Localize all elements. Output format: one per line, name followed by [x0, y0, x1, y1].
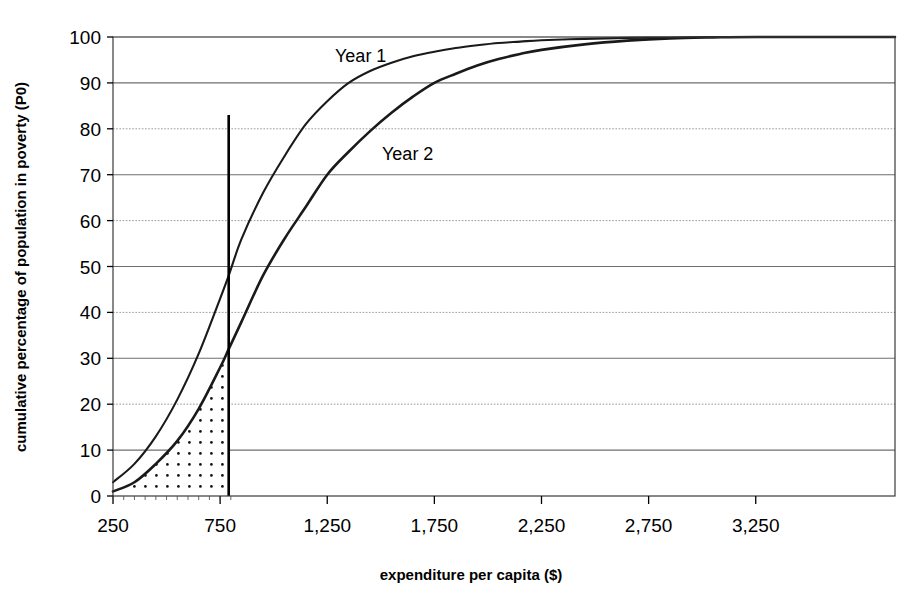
- x-tick-label: 250: [97, 515, 129, 536]
- y-tick-label: 20: [80, 394, 101, 415]
- y-tick-label: 30: [80, 348, 101, 369]
- y-tick-label: 60: [80, 211, 101, 232]
- y-tick-label: 10: [80, 440, 101, 461]
- x-tick-label: 3,250: [732, 515, 780, 536]
- x-tick-label: 1,750: [411, 515, 459, 536]
- chart-page: 0102030405060708090100 2507501,2501,7502…: [0, 0, 924, 603]
- y-axis-title: cumulative percentage of population in p…: [12, 82, 29, 452]
- y-tick-label: 100: [69, 27, 101, 48]
- x-tick-label: 1,250: [303, 515, 351, 536]
- y-tick-label: 70: [80, 165, 101, 186]
- cumulative-poverty-chart: 0102030405060708090100 2507501,2501,7502…: [0, 0, 924, 603]
- x-axis-title: expenditure per capita ($): [380, 566, 563, 583]
- x-tick-label: 2,250: [518, 515, 566, 536]
- y-tick-label: 90: [80, 73, 101, 94]
- series-label-year-1: Year 1: [335, 46, 386, 66]
- y-tick-label: 80: [80, 119, 101, 140]
- y-axis-ticks: [107, 37, 113, 496]
- y-tick-label: 40: [80, 302, 101, 323]
- y-tick-label: 50: [80, 257, 101, 278]
- x-tick-label: 2,750: [625, 515, 673, 536]
- y-axis-tick-labels: 0102030405060708090100: [69, 27, 101, 507]
- x-tick-label: 750: [204, 515, 236, 536]
- y-tick-label: 0: [90, 486, 101, 507]
- x-axis-tick-labels: 2507501,2501,7502,2502,7503,250: [97, 515, 779, 536]
- series-label-year-2: Year 2: [382, 144, 433, 164]
